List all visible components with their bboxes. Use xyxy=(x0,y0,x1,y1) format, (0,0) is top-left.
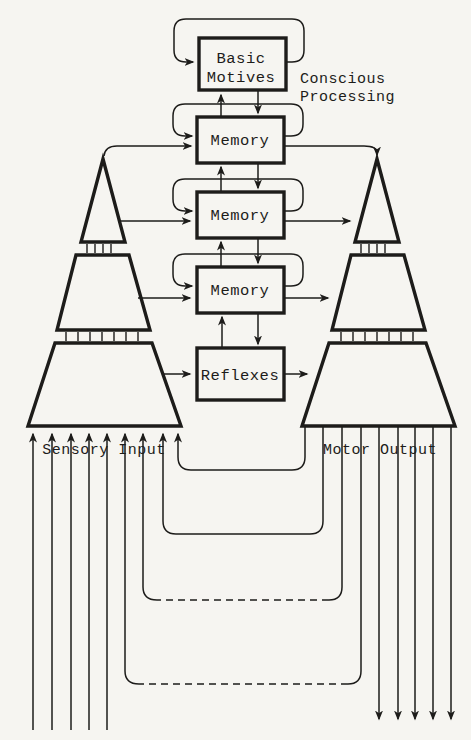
feedback-loop-2 xyxy=(163,427,323,534)
reflexes-node: Reflexes xyxy=(197,348,284,400)
sensory-input-label: Sensory Input xyxy=(42,442,166,459)
motor-tier-2-trapezoid xyxy=(332,255,425,330)
motor-tier-1-triangle xyxy=(355,159,399,242)
arrow-apex-to-memory-upper xyxy=(104,146,191,156)
motor-comb-1 xyxy=(361,244,385,253)
feedback-loop-4-left xyxy=(125,434,139,684)
conscious-processing-label-line2: Processing xyxy=(300,89,395,106)
motor-output-label: Motor Output xyxy=(323,442,437,459)
memory-middle-label: Memory xyxy=(211,207,270,225)
sensory-tier-2-trapezoid xyxy=(57,255,150,330)
basic-motives-label-line2: Motives xyxy=(207,69,276,87)
motor-pyramid xyxy=(302,159,455,426)
memory-lower-label: Memory xyxy=(211,282,270,300)
motor-tier-3-trapezoid xyxy=(302,343,455,426)
feedback-loop-1 xyxy=(178,427,305,470)
diagram-page: Basic Motives Memory Memory Memory Refle… xyxy=(0,0,471,740)
basic-motives-label-line1: Basic xyxy=(216,50,265,68)
sensory-comb-1 xyxy=(87,244,111,253)
memory-upper-node: Memory xyxy=(197,117,284,163)
sensory-input-lines xyxy=(33,434,107,730)
sensory-pyramid xyxy=(28,159,181,426)
basic-motives-node: Basic Motives xyxy=(199,38,286,90)
memory-lower-node: Memory xyxy=(197,267,284,313)
sensory-tier-1-triangle xyxy=(81,159,125,242)
memory-upper-label: Memory xyxy=(211,132,270,150)
arrow-memory-upper-to-apex xyxy=(284,146,377,155)
sensory-tier-3-trapezoid xyxy=(28,343,181,426)
motor-comb-2 xyxy=(341,332,413,341)
central-boxes: Basic Motives Memory Memory Memory Refle… xyxy=(197,38,286,400)
cognitive-architecture-diagram: Basic Motives Memory Memory Memory Refle… xyxy=(0,0,471,740)
sensory-comb-2 xyxy=(66,332,138,341)
motor-output-lines xyxy=(379,427,451,719)
motor-to-sensory-feedback-loops xyxy=(125,427,361,684)
conscious-processing-label-line1: Conscious xyxy=(300,71,386,88)
reflexes-label: Reflexes xyxy=(201,367,279,385)
feedback-loop-4-right xyxy=(348,427,361,684)
memory-middle-node: Memory xyxy=(197,192,284,238)
